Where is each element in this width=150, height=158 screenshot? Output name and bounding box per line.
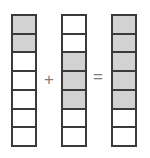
- bar-cell: [13, 35, 35, 54]
- bar-cell: [63, 72, 85, 91]
- bar-addend-2: [61, 14, 87, 147]
- bar-cell: [13, 72, 35, 91]
- plus-operator-icon: +: [41, 71, 57, 88]
- bar-cell: [63, 16, 85, 35]
- bar-cell: [63, 91, 85, 110]
- bar-cell: [113, 35, 135, 54]
- bar-cell: [63, 110, 85, 129]
- bar-cell: [13, 110, 35, 129]
- bar-sum: [111, 14, 137, 147]
- bar-cell: [63, 53, 85, 72]
- bar-cell: [113, 91, 135, 110]
- bar-cell: [113, 110, 135, 129]
- bar-cell: [13, 91, 35, 110]
- bar-addend-1: [11, 14, 37, 147]
- equals-operator-icon: =: [90, 68, 106, 85]
- bar-cell: [13, 16, 35, 35]
- bar-cell: [113, 72, 135, 91]
- bar-cell: [113, 53, 135, 72]
- bar-cell: [63, 35, 85, 54]
- bar-cell: [113, 16, 135, 35]
- bar-cell: [113, 128, 135, 145]
- fraction-addition-diagram: + =: [0, 0, 150, 158]
- bar-cell: [13, 128, 35, 145]
- bar-cell: [63, 128, 85, 145]
- bar-cell: [13, 53, 35, 72]
